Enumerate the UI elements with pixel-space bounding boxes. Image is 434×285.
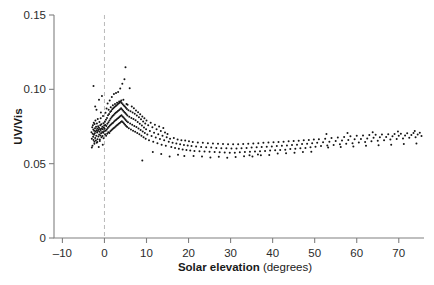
data-point xyxy=(193,150,195,152)
data-point xyxy=(129,123,131,125)
data-point xyxy=(159,138,161,140)
data-point xyxy=(103,137,105,139)
data-point xyxy=(352,142,354,144)
data-point xyxy=(117,91,119,93)
data-point xyxy=(354,138,356,140)
data-point xyxy=(109,99,111,101)
data-point xyxy=(212,142,214,144)
data-point xyxy=(343,136,345,138)
data-point xyxy=(232,143,234,145)
x-tick-label-5: 40 xyxy=(266,247,279,259)
data-point xyxy=(215,147,217,149)
data-point xyxy=(364,141,366,143)
data-point xyxy=(286,145,288,147)
data-point xyxy=(160,130,162,132)
data-point xyxy=(391,135,393,137)
data-point xyxy=(281,145,283,147)
data-point xyxy=(107,102,109,104)
data-point xyxy=(104,121,106,123)
data-point xyxy=(335,140,337,142)
data-point xyxy=(385,136,387,138)
data-point xyxy=(135,119,137,121)
data-point xyxy=(368,134,370,136)
data-point xyxy=(145,138,147,140)
data-point xyxy=(390,144,392,146)
data-point xyxy=(356,135,358,137)
data-point xyxy=(142,120,144,122)
data-point xyxy=(180,139,182,141)
data-point xyxy=(141,159,143,161)
data-point xyxy=(94,105,96,107)
data-point xyxy=(144,123,146,125)
data-point xyxy=(97,138,99,140)
data-point xyxy=(378,144,380,146)
data-point xyxy=(91,147,93,149)
data-point xyxy=(98,146,100,148)
data-point xyxy=(136,115,138,117)
data-point xyxy=(304,147,306,149)
data-point xyxy=(262,142,264,144)
data-point xyxy=(249,151,251,153)
data-point xyxy=(132,112,134,114)
data-point xyxy=(93,143,95,145)
data-point xyxy=(410,134,412,136)
data-point xyxy=(209,156,211,158)
data-point xyxy=(366,137,368,139)
data-point xyxy=(95,140,97,142)
x-tick-label-1: 0 xyxy=(101,247,107,259)
data-point xyxy=(187,145,189,147)
data-point xyxy=(222,143,224,145)
data-point xyxy=(100,129,102,131)
data-point xyxy=(244,151,246,153)
data-point xyxy=(155,137,157,139)
data-point xyxy=(157,133,159,135)
x-tick-label-0: –10 xyxy=(53,247,72,259)
data-point xyxy=(129,87,131,89)
data-point xyxy=(296,144,298,146)
data-point xyxy=(179,143,181,145)
data-point xyxy=(108,113,110,115)
y-tick-label-0: 0 xyxy=(40,232,46,244)
data-point xyxy=(161,144,163,146)
data-point xyxy=(167,133,169,135)
data-point xyxy=(133,125,135,127)
x-tick-label-6: 50 xyxy=(308,247,321,259)
data-point xyxy=(375,134,377,136)
data-point xyxy=(372,131,374,133)
data-point xyxy=(324,138,326,140)
data-point xyxy=(210,147,212,149)
data-point xyxy=(266,146,268,148)
data-point xyxy=(175,142,177,144)
data-point xyxy=(98,121,100,123)
data-point xyxy=(192,141,194,143)
data-point xyxy=(320,145,322,147)
data-point xyxy=(112,104,114,106)
data-point xyxy=(105,119,107,121)
data-point xyxy=(284,149,286,151)
data-point xyxy=(201,156,203,158)
data-point xyxy=(101,95,103,97)
data-point xyxy=(95,109,97,111)
data-point xyxy=(115,92,117,94)
data-point xyxy=(226,157,228,159)
data-point xyxy=(153,132,155,134)
data-point xyxy=(102,115,104,117)
data-point xyxy=(106,117,108,119)
data-point xyxy=(140,135,142,137)
data-point xyxy=(298,140,300,142)
data-point xyxy=(94,120,96,122)
data-point xyxy=(377,140,379,142)
data-point xyxy=(110,106,112,108)
data-point xyxy=(341,139,343,141)
data-point xyxy=(345,143,347,145)
data-point xyxy=(235,156,237,158)
data-point xyxy=(96,123,98,125)
data-point xyxy=(185,149,187,151)
data-point xyxy=(394,133,396,135)
data-point xyxy=(256,146,258,148)
data-point xyxy=(146,134,148,136)
y-tick-label-2: 0.10 xyxy=(24,83,46,95)
data-point xyxy=(403,143,405,145)
data-point xyxy=(415,136,417,138)
data-point xyxy=(400,133,402,135)
